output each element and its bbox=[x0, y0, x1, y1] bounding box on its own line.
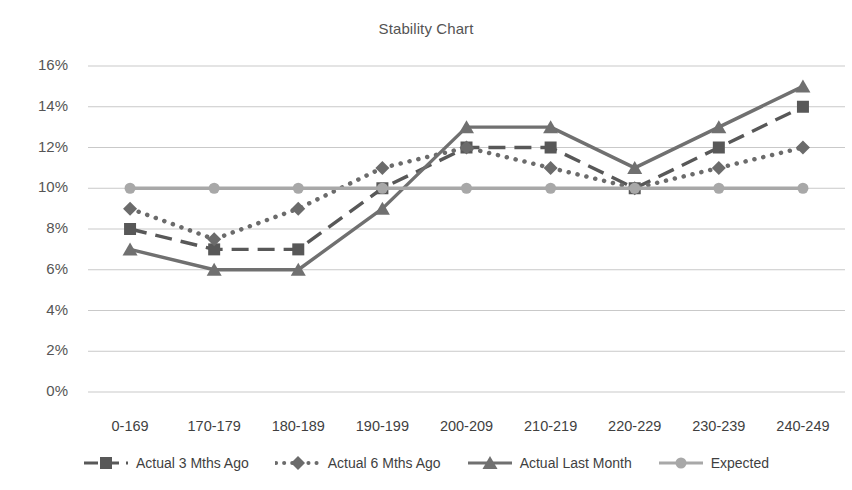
legend-item-actual-3-mths-ago[interactable]: Actual 3 Mths Ago bbox=[83, 454, 249, 472]
triangle-marker bbox=[467, 454, 513, 472]
legend-item-label: Actual 6 Mths Ago bbox=[328, 455, 441, 471]
plot-area bbox=[0, 0, 852, 490]
diamond-marker bbox=[275, 454, 321, 472]
series-actual-last-month bbox=[123, 79, 811, 275]
circle-marker bbox=[658, 454, 704, 472]
stability-chart-figure: Stability Chart 0%2%4%6%8%10%12%14%16% 0… bbox=[0, 0, 852, 490]
legend-item-label: Expected bbox=[711, 455, 769, 471]
legend-item-actual-6-mths-ago[interactable]: Actual 6 Mths Ago bbox=[275, 454, 441, 472]
legend-item-label: Actual 3 Mths Ago bbox=[136, 455, 249, 471]
legend-item-expected[interactable]: Expected bbox=[658, 454, 769, 472]
gridlines bbox=[88, 66, 845, 392]
series-layer bbox=[123, 79, 811, 275]
series-expected bbox=[125, 183, 809, 194]
square-marker bbox=[83, 454, 129, 472]
legend-item-label: Actual Last Month bbox=[520, 455, 632, 471]
legend-item-actual-last-month[interactable]: Actual Last Month bbox=[467, 454, 632, 472]
chart-legend: Actual 3 Mths AgoActual 6 Mths AgoActual… bbox=[0, 450, 852, 476]
